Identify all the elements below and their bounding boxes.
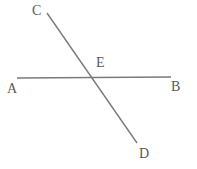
point-label-b: B [171,80,180,94]
line-segment-ab [17,77,171,78]
point-label-c: C [32,4,41,18]
point-label-a: A [7,82,17,96]
point-label-d: D [139,147,149,161]
geometry-diagram: A B C D E [0,0,197,169]
geometry-canvas [0,0,197,169]
point-label-e: E [96,56,105,70]
